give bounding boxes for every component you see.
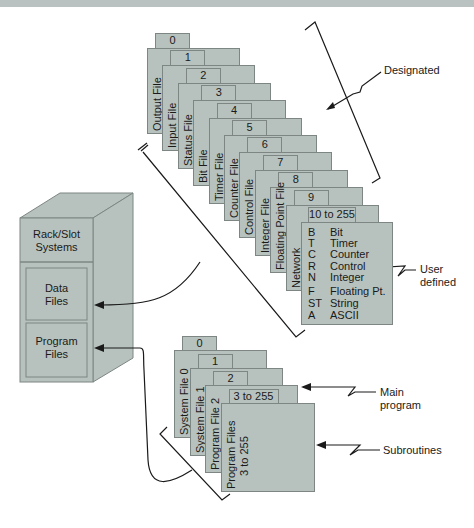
data-card-tab: 3 <box>201 85 236 101</box>
type-code: A <box>308 309 330 322</box>
data-cards-bracket <box>141 145 148 151</box>
type-name: ASCII <box>330 309 359 321</box>
program-card-label: System File 1 <box>194 386 206 453</box>
subroutines-arrowhead <box>316 441 326 449</box>
program-card-tab: 0 <box>182 336 217 351</box>
main-program-arrowhead <box>301 383 311 391</box>
designated-arrow <box>328 72 381 109</box>
data-files-line1: Data <box>26 282 87 295</box>
data-card-label: Input File <box>166 103 178 148</box>
type-name: String <box>330 297 359 309</box>
type-row: NInteger <box>308 271 364 284</box>
cabinet-side-face <box>93 193 133 382</box>
cabinet-title-line2: Systems <box>20 241 93 254</box>
program-card-tab: 1 <box>198 354 233 369</box>
type-name: Counter <box>330 248 369 260</box>
main-program-line1: Main <box>380 386 421 399</box>
data-card-tab: 0 <box>155 33 190 49</box>
program-files-line1: Program <box>26 335 87 348</box>
user-defined-line2: defined <box>420 276 456 289</box>
user-defined-card-tab: 10 to 255 <box>308 207 356 223</box>
main-program-line2: program <box>380 399 421 412</box>
data-files-line2: Files <box>26 295 87 308</box>
program-last-card-line1: Program Files <box>225 420 237 488</box>
data-card-label: Timer File <box>213 152 225 200</box>
data-card-label: Floating Point File <box>274 182 286 270</box>
program-card-tab: 2 <box>213 371 248 386</box>
data-card-label: Output File <box>151 77 163 131</box>
type-row: STString <box>308 297 359 310</box>
data-card-label: Network <box>290 247 302 287</box>
type-name: Control <box>330 260 365 272</box>
data-card-tab: 7 <box>263 155 298 171</box>
data-card-tab: 6 <box>247 137 282 153</box>
type-name: Bit <box>330 226 343 238</box>
program-last-card-tab: 3 to 255 <box>229 389 279 404</box>
user-defined-label: User defined <box>420 263 456 289</box>
type-row: FFloating Pt. <box>308 285 386 298</box>
cabinet-title: Rack/Slot Systems <box>20 228 93 254</box>
data-card-label: Status File <box>182 114 194 166</box>
type-row: AASCII <box>308 309 359 322</box>
program-files-line2: Files <box>26 348 87 361</box>
program-last-card-line2: 3 to 255 <box>238 436 250 476</box>
data-files-label: Data Files <box>26 282 87 308</box>
type-name: Timer <box>330 237 358 249</box>
main-program-label: Main program <box>380 386 421 412</box>
type-name: Integer <box>330 271 364 283</box>
program-files-label: Program Files <box>26 335 87 361</box>
data-card-tab: 4 <box>217 103 252 119</box>
designated-label: Designated <box>384 64 440 77</box>
subroutines-arrow <box>318 445 380 455</box>
data-card-label: Bit File <box>197 150 209 184</box>
data-card-tab: 1 <box>170 50 205 66</box>
data-card-label: Integer File <box>259 198 271 253</box>
type-code: ST <box>308 297 330 310</box>
data-card-tab: 5 <box>232 120 267 136</box>
main-program-arrow <box>303 387 376 396</box>
type-name: Floating Pt. <box>330 285 386 297</box>
type-code: N <box>308 271 330 284</box>
data-card-label: Counter File <box>228 158 240 218</box>
user-defined-line1: User <box>420 263 456 276</box>
type-code: F <box>308 285 330 298</box>
program-card-label: Program File 2 <box>209 398 221 470</box>
user-defined-card: BBitTTimerCCounterRControlNIntegerFFloat… <box>301 222 393 325</box>
data-card-tab: 2 <box>186 68 221 84</box>
program-card-label: System File 0 <box>178 368 190 435</box>
data-card-tab: 9 <box>294 190 329 206</box>
data-card-label: Control File <box>243 179 255 235</box>
designated-arrowhead <box>326 102 335 110</box>
cabinet-title-line1: Rack/Slot <box>20 228 93 241</box>
subroutines-label: Subroutines <box>383 444 442 457</box>
program-last-card: Program Files3 to 255 <box>221 403 315 492</box>
